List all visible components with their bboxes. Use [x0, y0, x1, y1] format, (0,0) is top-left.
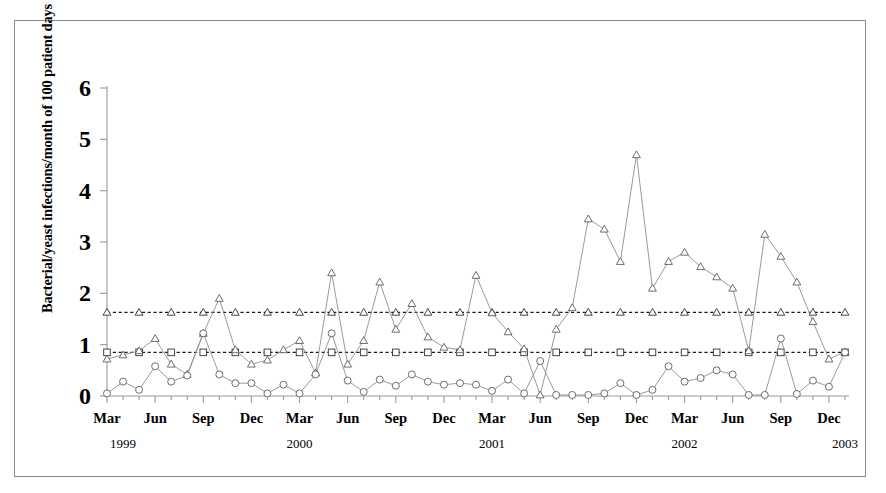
triangle-series-marker: [536, 391, 544, 398]
x-axis-month-label: Mar: [93, 410, 121, 426]
square-reference-line-marker: [200, 349, 207, 356]
circle-series-marker: [697, 375, 704, 382]
circle-series-marker: [601, 390, 608, 397]
triangle-series-marker: [600, 225, 608, 232]
triangle-reference-line-marker: [713, 308, 721, 315]
triangle-series-marker: [793, 278, 801, 285]
triangle-series-marker: [280, 346, 288, 353]
circle-series-marker: [248, 380, 255, 387]
square-reference-line-marker: [617, 349, 624, 356]
circle-series-marker: [793, 390, 800, 397]
circle-series-marker: [120, 378, 127, 385]
square-reference-line-marker: [553, 349, 560, 356]
circle-series-marker: [842, 349, 849, 356]
square-reference-line-marker: [585, 349, 592, 356]
square-reference-line-marker: [489, 349, 496, 356]
triangle-reference-line-marker: [777, 308, 785, 315]
circle-series-marker: [344, 377, 351, 384]
x-axis-month-label: Mar: [478, 410, 506, 426]
circle-series-marker: [761, 391, 768, 398]
triangle-series-marker: [825, 355, 833, 362]
square-reference-line-marker: [392, 349, 399, 356]
square-reference-line-marker: [778, 349, 785, 356]
circle-series-marker: [104, 390, 111, 397]
triangle-series-marker: [360, 337, 368, 344]
triangle-reference-line-marker: [424, 308, 432, 315]
circle-series-marker: [809, 377, 816, 384]
circle-series-marker: [376, 376, 383, 383]
chart-plot-area: 0123456MarJunSepDecMarJunSepDecMarJunSep…: [0, 0, 886, 493]
square-reference-line-marker: [296, 349, 303, 356]
circle-series-marker: [553, 391, 560, 398]
x-axis-month-label: Mar: [286, 410, 314, 426]
triangle-reference-line-marker: [231, 308, 239, 315]
x-axis-year-label: 1999: [110, 436, 136, 451]
circle-series-marker: [312, 371, 319, 378]
triangle-series-marker: [584, 215, 592, 222]
triangle-series-marker: [151, 335, 159, 342]
triangle-series-marker: [215, 295, 223, 302]
y-tick-label: 5: [79, 126, 91, 152]
circle-series-marker: [280, 381, 287, 388]
x-axis-year-label: 2002: [672, 436, 698, 451]
circle-series-marker: [681, 378, 688, 385]
y-tick-label: 4: [79, 178, 91, 204]
x-axis-month-label: Mar: [671, 410, 699, 426]
x-axis-month-label: Dec: [817, 410, 841, 426]
circle-series-marker: [617, 380, 624, 387]
triangle-series-marker: [616, 258, 624, 265]
circle-series-marker: [456, 380, 463, 387]
y-tick-label: 2: [79, 280, 91, 306]
triangle-series-marker: [264, 356, 272, 363]
y-tick-label: 6: [79, 75, 91, 101]
x-axis-year-label: 2000: [287, 436, 313, 451]
x-axis-month-label: Sep: [192, 410, 215, 426]
triangle-series-marker: [777, 252, 785, 259]
circle-series-marker: [424, 378, 431, 385]
x-axis-year-label: 2003: [832, 436, 858, 451]
triangle-series-marker: [408, 300, 416, 307]
y-tick-label: 0: [79, 383, 91, 409]
triangle-series-marker: [729, 284, 737, 291]
square-reference-line-marker: [168, 349, 175, 356]
circle-series-marker: [392, 382, 399, 389]
square-reference-line-marker: [810, 349, 817, 356]
triangle-series-marker: [296, 337, 304, 344]
triangle-series-marker: [649, 284, 657, 291]
x-axis-month-label: Dec: [432, 410, 456, 426]
triangle-reference-line-marker: [296, 308, 304, 315]
y-tick-label: 3: [79, 229, 91, 255]
x-axis-month-label: Jun: [143, 410, 166, 426]
square-reference-line-marker: [360, 349, 367, 356]
x-axis-month-label: Sep: [577, 410, 600, 426]
circle-series-marker: [569, 391, 576, 398]
triangle-reference-line-marker: [841, 308, 849, 315]
square-reference-line-marker: [649, 349, 656, 356]
circle-series-marker: [649, 386, 656, 393]
circle-series-marker: [136, 386, 143, 393]
circle-series-marker: [777, 335, 784, 342]
x-axis-month-label: Sep: [384, 410, 407, 426]
line-chart: 0123456MarJunSepDecMarJunSepDecMarJunSep…: [0, 0, 886, 493]
triangle-series-marker: [809, 318, 817, 325]
square-reference-line-marker: [713, 349, 720, 356]
circle-series-marker: [216, 371, 223, 378]
circle-series-marker: [729, 371, 736, 378]
triangle-series-marker: [633, 151, 641, 158]
triangle-reference-line-marker: [360, 308, 368, 315]
circle-series-marker: [200, 330, 207, 337]
triangle-series-marker: [376, 278, 384, 285]
triangle-series-marker: [392, 325, 400, 332]
x-axis-month-label: Jun: [336, 410, 359, 426]
square-reference-line-marker: [264, 349, 271, 356]
circle-series-marker: [473, 381, 480, 388]
circle-series-marker: [264, 390, 271, 397]
square-reference-line-marker: [328, 349, 335, 356]
triangle-series-marker: [713, 273, 721, 280]
triangle-series-marker: [568, 304, 576, 311]
circle-series-marker: [521, 390, 528, 397]
triangle-series-marker: [424, 333, 432, 340]
circle-series-marker: [505, 376, 512, 383]
x-axis-month-label: Jun: [528, 410, 551, 426]
triangle-series-marker: [552, 325, 560, 332]
